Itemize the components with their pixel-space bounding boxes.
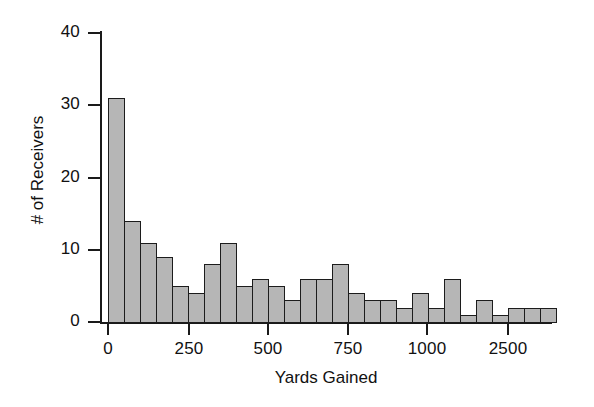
y-axis-tick	[88, 321, 100, 323]
histogram-bar	[380, 300, 397, 323]
y-axis-tick-label: 40	[40, 22, 80, 42]
histogram-bar	[268, 286, 285, 323]
x-axis-tick-label: 0	[68, 339, 148, 359]
histogram-bar	[540, 308, 557, 323]
x-axis-title: Yards Gained	[100, 368, 552, 388]
y-axis-title: # of Receivers	[28, 70, 48, 270]
x-axis-tick	[107, 324, 109, 335]
x-axis-tick	[507, 324, 509, 335]
histogram-bar	[156, 257, 173, 323]
histogram-bar	[236, 286, 253, 323]
histogram-bar	[316, 279, 333, 323]
y-axis-tick	[88, 32, 100, 34]
y-axis-line	[100, 31, 102, 324]
y-axis-tick	[88, 177, 100, 179]
histogram-bar	[252, 279, 269, 323]
histogram-bar	[460, 315, 477, 323]
histogram-bar	[172, 286, 189, 323]
histogram-bar	[188, 293, 205, 323]
x-axis-tick-label: 750	[308, 339, 388, 359]
plot-area: 010203040 025050075010002500 # of Receiv…	[0, 0, 594, 407]
x-axis-tick-label: 2500	[468, 339, 548, 359]
histogram-bar	[108, 98, 125, 323]
histogram-bar	[124, 221, 141, 323]
y-axis-tick	[88, 249, 100, 251]
histogram-bar	[508, 308, 525, 323]
x-axis-tick-label: 250	[149, 339, 229, 359]
histogram-bar	[444, 279, 461, 323]
histogram-bar	[284, 300, 301, 323]
histogram-bar	[332, 264, 349, 323]
histogram-bar	[428, 308, 445, 323]
y-axis-tick-label: 0	[40, 311, 80, 331]
histogram-bar	[220, 243, 237, 323]
histogram-bar	[300, 279, 317, 323]
histogram-bar	[364, 300, 381, 323]
histogram-bar	[396, 308, 413, 323]
x-axis-tick	[347, 324, 349, 335]
histogram-bar	[524, 308, 541, 323]
histogram-chart: 010203040 025050075010002500 # of Receiv…	[0, 0, 594, 407]
histogram-bar	[348, 293, 365, 323]
x-axis-tick	[426, 324, 428, 335]
x-axis-tick	[188, 324, 190, 335]
histogram-bar	[492, 315, 509, 323]
x-axis-tick	[267, 324, 269, 335]
x-axis-tick-label: 500	[228, 339, 308, 359]
y-axis-tick	[88, 104, 100, 106]
histogram-bar	[412, 293, 429, 323]
x-axis-tick-label: 1000	[387, 339, 467, 359]
histogram-bar	[476, 300, 493, 323]
histogram-bar	[140, 243, 157, 323]
histogram-bar	[204, 264, 221, 323]
